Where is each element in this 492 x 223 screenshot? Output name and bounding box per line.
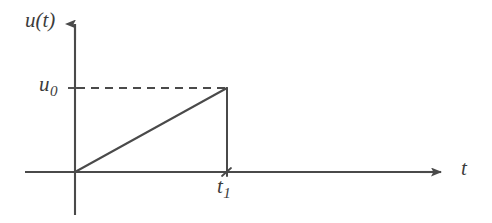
y-axis-label: u(t) (25, 10, 55, 31)
x-axis-label: t (461, 158, 467, 179)
x-tick-label-t1: t1 (217, 176, 231, 201)
y-value-label-subscript: 0 (50, 83, 58, 99)
x-tick-label-base: t (217, 174, 223, 198)
x-tick-label-subscript: 1 (223, 185, 231, 201)
plot-canvas (0, 0, 492, 223)
ramp-function-figure: u(t) u0 t1 t (0, 0, 492, 223)
y-value-label-u0: u0 (39, 74, 58, 99)
y-value-label-base: u (39, 72, 50, 96)
ramp-line (75, 88, 227, 172)
